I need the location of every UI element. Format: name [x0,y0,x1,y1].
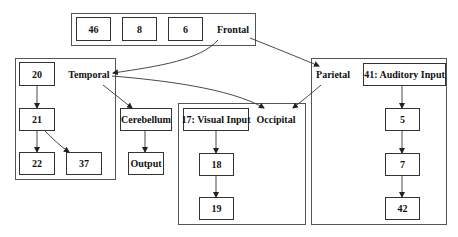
node-18: 18 [199,153,234,176]
parietal-label: Parietal [316,69,350,80]
edge-frontal-parietal [250,38,319,66]
node-37: 37 [66,152,102,175]
node-20: 20 [19,62,55,86]
node-5: 5 [385,108,420,131]
node-6: 6 [168,17,203,41]
node-19: 19 [199,197,234,220]
occipital-label: Occipital [257,114,296,125]
node-21: 21 [19,108,55,131]
temporal-label: Temporal [68,69,109,80]
node-7: 7 [385,153,420,176]
node-46: 46 [76,17,111,41]
node-output: Output [128,152,164,175]
node-41-auditory-input: 41: Auditory Input [363,63,446,86]
node-17-visual-input: 17: Visual Input [183,108,249,131]
frontal-label: Frontal [217,24,249,35]
node-cerebellum: Cerebellum [120,108,172,131]
node-42: 42 [385,197,420,220]
node-8: 8 [122,17,157,41]
node-22: 22 [19,152,55,175]
